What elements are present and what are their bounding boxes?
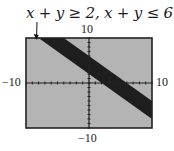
plot-area xyxy=(0,0,174,151)
